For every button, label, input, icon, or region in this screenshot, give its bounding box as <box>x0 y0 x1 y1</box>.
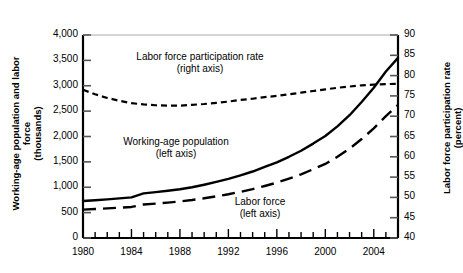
right-axis-tick-label: 40 <box>404 231 434 242</box>
right-axis-tick-label: 75 <box>404 89 434 100</box>
right-axis-tick-label: 65 <box>404 130 434 141</box>
left-axis-tick-label: 500 <box>24 206 78 217</box>
left-axis-tick-label: 2,000 <box>24 130 78 141</box>
right-axis-tick-label: 85 <box>404 48 434 59</box>
right-axis-tick-label: 80 <box>404 69 434 80</box>
right-axis-tick-label: 70 <box>404 109 434 120</box>
left-axis-tick-label: 1,500 <box>24 155 78 166</box>
series-line-working-age-population <box>83 58 398 201</box>
left-axis-tick-label: 4,000 <box>24 28 78 39</box>
series-line-labor-force <box>83 105 398 210</box>
left-axis-tick-label: 0 <box>24 231 78 242</box>
right-axis-tick-label: 60 <box>404 150 434 161</box>
x-axis-tick-label: 2004 <box>344 246 404 257</box>
right-axis-tick-label: 45 <box>404 211 434 222</box>
left-axis-tick-label: 1,000 <box>24 180 78 191</box>
left-axis-tick-label: 3,000 <box>24 79 78 90</box>
right-axis-tick-label: 90 <box>404 28 434 39</box>
left-axis-tick-label: 2,500 <box>24 104 78 115</box>
left-axis-tick-label: 3,500 <box>24 53 78 64</box>
series-line-labor-force-participation-rate <box>83 84 398 106</box>
right-axis-tick-label: 55 <box>404 170 434 181</box>
right-axis-tick-label: 50 <box>404 190 434 201</box>
